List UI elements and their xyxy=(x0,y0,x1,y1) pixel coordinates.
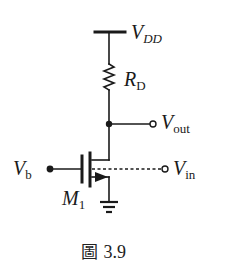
ground-icon xyxy=(100,202,118,212)
label-vin: Vin xyxy=(173,158,195,178)
label-vout-main: V xyxy=(161,111,173,133)
label-vb-main: V xyxy=(13,157,25,179)
label-vb: Vb xyxy=(13,158,32,178)
label-rd-main: R xyxy=(124,68,136,90)
label-rd: RD xyxy=(124,69,146,89)
label-vdd: VDD xyxy=(131,22,162,42)
label-vout-sub: out xyxy=(173,121,190,136)
label-vb-sub: b xyxy=(25,167,32,182)
label-m1: M1 xyxy=(62,188,85,208)
caption-prefix: 圖 xyxy=(81,242,98,262)
label-rd-sub: D xyxy=(136,78,145,93)
vout-terminal-circle xyxy=(150,121,156,127)
label-vdd-main: V xyxy=(131,21,143,43)
source-arrow-icon xyxy=(95,172,108,182)
label-m1-sub: 1 xyxy=(79,197,86,212)
label-vout: Vout xyxy=(161,112,190,132)
drain-node-dot xyxy=(106,121,112,127)
caption-number: 3.9 xyxy=(103,242,126,262)
label-vdd-sub: DD xyxy=(143,31,162,46)
resistor-rd-icon xyxy=(104,64,114,90)
label-vin-main: V xyxy=(173,157,185,179)
label-m1-main: M xyxy=(62,187,79,209)
common-source-circuit-diagram xyxy=(0,0,225,274)
figure-caption: 圖 3.9 xyxy=(81,238,126,263)
vb-terminal-dot xyxy=(47,166,54,173)
vin-terminal-circle xyxy=(162,166,168,172)
label-vin-sub: in xyxy=(185,167,195,182)
